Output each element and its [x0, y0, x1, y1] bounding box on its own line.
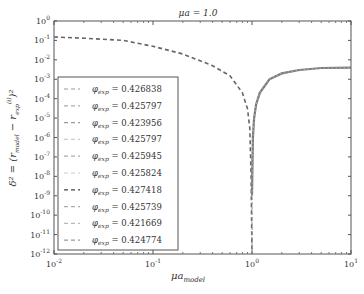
y-tick-label: 10-3	[34, 72, 50, 84]
x-tick-label: 10-2	[46, 257, 62, 269]
chart: 10010-110-210-310-410-510-610-710-810-91…	[0, 0, 364, 294]
y-tick-label: 10-6	[34, 131, 50, 143]
x-tick-label: 10-1	[145, 257, 161, 269]
y-tick-label: 10-5	[34, 111, 50, 123]
y-tick-label: 10-11	[30, 228, 50, 240]
y-tick-label: 10-2	[34, 53, 50, 65]
y-axis-label: δ² = (rmodel − rexp(i))²	[5, 90, 21, 187]
y-tick-label: 10-12	[30, 247, 50, 259]
legend: φexp = 0.426838φexp = 0.425797φexp = 0.4…	[58, 77, 178, 250]
y-tick-label: 10-10	[30, 208, 50, 220]
chart-title: μa = 1.0	[179, 8, 218, 18]
svg-text:δ² = (rmodel − rexp(i))²: δ² = (rmodel − rexp(i))²	[5, 90, 21, 187]
y-tick-label: 10-8	[34, 169, 50, 181]
x-tick-label: 100	[245, 257, 259, 269]
y-tick-label: 10-4	[34, 92, 50, 104]
x-axis-label: μamodel	[171, 270, 205, 284]
y-tick-label: 10-9	[34, 189, 50, 201]
y-tick-label: 10-1	[34, 33, 50, 45]
solid-curve	[252, 68, 351, 196]
y-tick-label: 10-7	[34, 150, 50, 162]
y-tick-label: 100	[36, 14, 50, 26]
x-tick-label: 101	[344, 257, 358, 269]
